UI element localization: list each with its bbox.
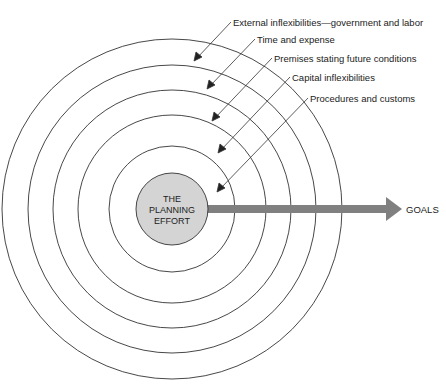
goal-arrow-head: [386, 197, 402, 221]
center-line-3: EFFORT: [154, 216, 190, 226]
center-line-2: PLANNING: [149, 205, 195, 215]
label-external-inflexibilities: External inflexibilities—government and …: [233, 17, 423, 28]
label-premises: Premises stating future conditions: [274, 53, 417, 64]
arrow-head-icon: [217, 183, 225, 192]
center-line-1: THE: [163, 194, 181, 204]
goals-label: GOALS: [406, 204, 439, 215]
label-capital-inflexibilities: Capital inflexibilities: [292, 72, 375, 83]
arrow-head-icon: [218, 144, 226, 153]
arrow-head-icon: [212, 112, 220, 121]
arrow-head-icon: [194, 52, 202, 61]
arrow-head-icon: [207, 80, 215, 89]
planning-diagram: External inflexibilities—government and …: [0, 0, 446, 385]
label-time-expense: Time and expense: [257, 34, 335, 45]
goal-arrow-shaft: [205, 205, 388, 213]
label-procedures-customs: Procedures and customs: [310, 93, 415, 104]
